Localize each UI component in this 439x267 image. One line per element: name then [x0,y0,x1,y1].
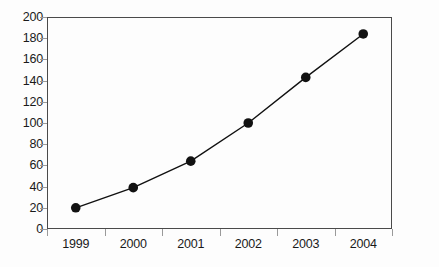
y-axis-tick-label: 200 [0,11,43,24]
y-axis-tick-mark [40,229,47,230]
y-axis-tick-label: 180 [0,32,43,45]
y-axis-tick-mark [40,144,47,145]
x-axis-tick-mark [162,229,163,236]
y-axis-tick-mark [40,38,47,39]
x-axis-tick-mark [392,229,393,236]
y-axis-tick-label: 140 [0,75,43,88]
x-axis-tick-mark [105,229,106,236]
plot-area [47,17,392,229]
y-axis-tick-label: 20 [0,202,43,215]
x-axis-tick-label: 2004 [328,238,398,251]
y-axis-tick-label: 120 [0,96,43,109]
y-axis-tick-mark [40,123,47,124]
y-axis-tick-label: 160 [0,53,43,66]
x-axis-tick-mark [220,229,221,236]
y-axis-tick-mark [40,81,47,82]
chart-figure: 020406080100120140160180200 199920002001… [0,0,439,267]
x-axis-tick-mark [335,229,336,236]
y-axis-tick-mark [40,59,47,60]
y-axis-tick-mark [40,102,47,103]
x-axis-tick-mark [277,229,278,236]
y-axis-tick-label: 60 [0,159,43,172]
y-axis-tick-mark [40,165,47,166]
y-axis-tick-mark [40,208,47,209]
y-axis-tick-label: 100 [0,117,43,130]
x-axis-tick-mark [47,229,48,236]
y-axis-tick-label: 80 [0,138,43,151]
y-axis-tick-label: 0 [0,223,43,236]
y-axis-tick-label: 40 [0,181,43,194]
y-axis-tick-mark [40,187,47,188]
y-axis-tick-mark [40,17,47,18]
